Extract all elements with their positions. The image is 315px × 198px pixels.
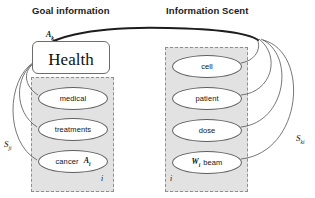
strength-label-left: Sji (4, 139, 12, 151)
node-beam-label: beam (203, 158, 222, 167)
wire-health-to-cancer (13, 62, 37, 160)
node-beam-variable-subscript: i (199, 162, 201, 168)
node-beam-variable: Wi (192, 157, 201, 168)
wire-beam-outward (241, 40, 294, 159)
node-treatments[interactable]: treatments (38, 118, 108, 141)
node-cell[interactable]: cell (172, 55, 242, 78)
goal-panel-index-marker: i (101, 174, 103, 183)
node-cancer[interactable]: cancer Ai (38, 150, 108, 173)
health-concept-box[interactable]: Health (32, 41, 110, 74)
node-cell-label: cell (201, 62, 213, 71)
node-patient[interactable]: patient (172, 87, 242, 110)
node-patient-label: patient (195, 94, 218, 103)
wire-cell-outward (241, 38, 259, 63)
node-cancer-variable: Ai (84, 156, 91, 167)
node-cancer-label: cancer (56, 157, 79, 166)
health-concept-label: Health (33, 51, 109, 68)
strength-label-right: Ski (296, 133, 304, 145)
wire-patient-outward (241, 39, 271, 95)
node-cancer-variable-subscript: i (89, 161, 91, 167)
node-dose-label: dose (199, 126, 216, 135)
strength-right-subscript: ki (301, 139, 305, 145)
node-medical-label: medical (60, 94, 87, 103)
node-dose[interactable]: dose (172, 119, 242, 142)
node-beam[interactable]: Wi beam (172, 151, 242, 174)
health-variable-label: Ak (46, 30, 54, 41)
node-treatments-label: treatments (55, 125, 91, 134)
node-medical[interactable]: medical (38, 87, 108, 110)
wire-dose-outward (241, 39, 282, 127)
node-beam-variable-symbol: W (192, 157, 199, 166)
strength-left-subscript: ji (9, 145, 12, 151)
scent-panel-index-marker: i (170, 174, 172, 183)
health-variable-subscript: k (51, 35, 54, 41)
diagram-canvas: Goal information Information Scent Healt… (0, 0, 315, 198)
